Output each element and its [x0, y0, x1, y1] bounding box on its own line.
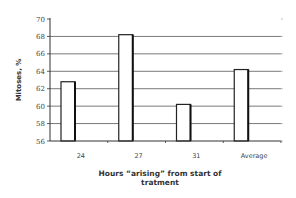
y-tick-label: 60 — [36, 103, 45, 111]
bar-31 — [177, 104, 191, 141]
x-axis-label-line: tratment — [141, 178, 179, 187]
bar-27 — [119, 35, 133, 141]
y-tick-label: 66 — [36, 50, 45, 58]
y-tick-label: 64 — [36, 68, 45, 76]
y-axis-label: Mitoses, % — [15, 59, 23, 102]
x-tick-label: 27 — [134, 152, 142, 160]
y-tick-label: 58 — [36, 120, 45, 128]
y-tick-label: 62 — [36, 85, 45, 93]
x-tick-label: 31 — [192, 152, 200, 160]
y-tick-label: 70 — [36, 16, 45, 24]
bars — [61, 35, 248, 141]
y-tick-label: 56 — [36, 138, 45, 146]
x-tick-label: 24 — [77, 152, 85, 160]
bar-24 — [61, 82, 75, 141]
x-axis-label-line: Hours “arising” from start of — [98, 169, 222, 178]
x-tick-label: Average — [241, 152, 268, 160]
y-tick-label: 68 — [36, 33, 45, 41]
x-axis-ticks: 242731Average — [77, 141, 281, 160]
x-axis-label: Hours “arising” from start oftratment — [98, 169, 222, 187]
bar-chart: 5658606264666870 242731Average Mitoses, … — [0, 0, 296, 198]
bar-average — [234, 70, 248, 141]
